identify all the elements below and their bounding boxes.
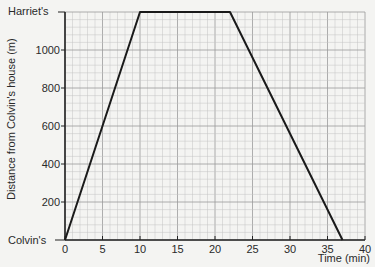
y-tick-label: 1000: [36, 44, 60, 56]
tick-labels: 05101520253035402004006008001000: [36, 44, 372, 255]
x-tick-label: 15: [171, 243, 183, 255]
x-tick-label: 5: [99, 243, 105, 255]
y-tick-label: 800: [42, 82, 60, 94]
x-tick-label: 0: [62, 243, 68, 255]
y-tick-label: 600: [42, 120, 60, 132]
x-axis-title: Time (min): [318, 252, 370, 264]
y-axis-title: Distance from Colvin's house (m): [5, 38, 17, 200]
grid: [65, 12, 365, 240]
y-label-bottom: Colvin's: [8, 234, 47, 246]
y-tick-label: 200: [42, 196, 60, 208]
x-tick-label: 20: [209, 243, 221, 255]
x-tick-label: 10: [134, 243, 146, 255]
distance-time-chart: 05101520253035402004006008001000 Harriet…: [0, 0, 375, 267]
x-tick-label: 30: [284, 243, 296, 255]
y-tick-label: 400: [42, 158, 60, 170]
y-label-top: Harriet's: [8, 5, 49, 17]
x-tick-label: 25: [246, 243, 258, 255]
